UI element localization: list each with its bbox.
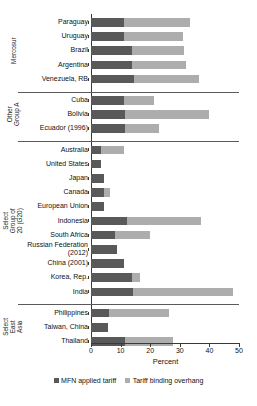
x-axis-tick-label: 30	[176, 347, 184, 355]
bar-segment-binding-overhang	[133, 288, 233, 297]
bar-segment-applied-tariff	[91, 217, 127, 226]
group-label: Select Group of 20 (G20)	[0, 144, 26, 299]
bar-segment-binding-overhang	[124, 96, 153, 105]
y-axis-tick	[88, 191, 89, 194]
bar-segment-binding-overhang	[125, 337, 173, 346]
y-axis-tick	[88, 276, 89, 279]
y-axis-tick	[88, 248, 89, 251]
legend-item: MFN applied tariff	[54, 377, 117, 384]
category-label: Canada	[26, 188, 88, 196]
bar-segment-binding-overhang	[124, 18, 191, 27]
bar-segment-binding-overhang	[109, 309, 169, 318]
y-axis-tick	[88, 177, 89, 180]
bar-segment-applied-tariff	[91, 32, 124, 41]
y-axis-tick	[88, 205, 89, 208]
category-label: India	[26, 288, 88, 296]
bar-segment-applied-tariff	[91, 18, 124, 27]
bar-segment-applied-tariff	[91, 110, 125, 119]
bar-segment-applied-tariff	[91, 61, 132, 70]
category-label: European Union	[26, 202, 88, 210]
x-axis-tick	[121, 343, 122, 347]
group-label-text: Other Group A	[6, 101, 20, 127]
y-axis-tick	[88, 219, 89, 222]
category-label: Venezuela, RB	[26, 75, 88, 83]
bar-segment-applied-tariff	[91, 124, 125, 133]
category-label: United States	[26, 160, 88, 168]
group-label-text: Select East Asia	[2, 314, 24, 340]
y-axis-tick	[88, 49, 89, 52]
category-label: South Africa	[26, 231, 88, 239]
x-axis-title-text: Percent	[153, 357, 178, 366]
category-label: Taiwan, China	[26, 323, 88, 331]
x-axis-tick	[209, 343, 210, 347]
y-axis-tick	[88, 127, 89, 130]
x-axis-tick	[91, 343, 92, 347]
bar-segment-applied-tariff	[91, 46, 132, 55]
group-label: Mercosur	[0, 16, 26, 85]
category-label: Uruguay	[26, 32, 88, 40]
y-axis-tick	[88, 113, 89, 116]
x-axis-tick	[180, 343, 181, 347]
bar-segment-applied-tariff	[91, 231, 115, 240]
y-axis-tick	[88, 99, 89, 102]
legend-swatch-icon	[125, 378, 130, 383]
x-axis-tick-label: 0	[89, 347, 93, 355]
category-label: Russian Federation (2012)	[26, 241, 88, 256]
bar-segment-binding-overhang	[125, 124, 159, 133]
category-label: Brazil	[26, 46, 88, 54]
bar-segment-applied-tariff	[91, 75, 134, 84]
category-label: Korea, Rep.	[26, 273, 88, 281]
y-axis-tick	[88, 63, 89, 66]
y-axis-tick	[88, 312, 89, 315]
x-axis-line	[91, 343, 239, 344]
y-axis-tick	[88, 234, 89, 237]
y-axis-tick	[88, 163, 89, 166]
group-separator	[18, 92, 239, 93]
x-axis-tick-label: 20	[146, 347, 154, 355]
category-label: Indonesia	[26, 217, 88, 225]
bar-segment-binding-overhang	[104, 188, 110, 197]
bar-segment-applied-tariff	[91, 160, 101, 169]
category-label: Ecuador (1996)	[26, 124, 88, 132]
bar-segment-applied-tariff	[91, 96, 124, 105]
category-label-column: ParaguayUruguayBrazilArgentinaVenezuela,…	[26, 0, 90, 406]
bar-segment-applied-tariff	[91, 323, 108, 332]
group-label: Other Group A	[0, 94, 26, 135]
category-label: China (2001)	[26, 259, 88, 267]
legend-label: Tariff binding overhang	[133, 377, 204, 384]
category-label: Australia	[26, 146, 88, 154]
chart-legend: MFN applied tariffTariff binding overhan…	[0, 377, 257, 384]
legend-item: Tariff binding overhang	[125, 377, 203, 384]
x-axis-title: Percent	[0, 357, 257, 366]
category-label: Philippines	[26, 309, 88, 317]
group-label-rail: MercosurOther Group ASelect Group of 20 …	[0, 0, 26, 406]
bar-segment-applied-tariff	[91, 309, 109, 318]
y-axis-tick	[88, 290, 89, 293]
bar-segment-binding-overhang	[115, 231, 151, 240]
x-axis-tick	[150, 343, 151, 347]
category-label: Thailand	[26, 337, 88, 345]
group-separator	[18, 304, 239, 305]
bar-segment-binding-overhang	[132, 61, 187, 70]
bar-segment-applied-tariff	[91, 174, 104, 183]
x-axis-tick-label: 10	[117, 347, 125, 355]
y-axis-tick	[88, 340, 89, 343]
x-axis-tick	[239, 343, 240, 347]
bar-segment-applied-tariff	[91, 273, 132, 282]
category-label: Argentina	[26, 61, 88, 69]
bar-segment-applied-tariff	[91, 146, 101, 155]
bar-segment-applied-tariff	[91, 202, 104, 211]
bar-segment-binding-overhang	[132, 46, 185, 55]
bar-segment-binding-overhang	[134, 75, 200, 84]
x-axis-tick-label: 50	[235, 347, 243, 355]
category-label: Paraguay	[26, 18, 88, 26]
bar-segment-applied-tariff	[91, 245, 117, 254]
group-separator	[18, 141, 239, 142]
category-label: Bolivia	[26, 110, 88, 118]
bar-segment-binding-overhang	[124, 32, 183, 41]
tariff-bar-chart: MercosurOther Group ASelect Group of 20 …	[0, 0, 257, 406]
bar-segment-applied-tariff	[91, 259, 124, 268]
bar-segment-binding-overhang	[101, 146, 123, 155]
bar-segment-applied-tariff	[91, 288, 133, 297]
y-axis-tick	[88, 326, 89, 329]
